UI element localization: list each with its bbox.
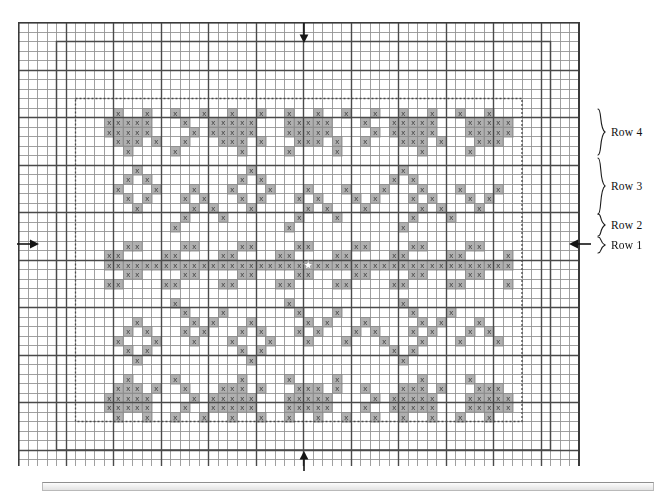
brace-icon-row-4 [596, 108, 607, 156]
row-marker-label-row-2: Row 2 [611, 219, 642, 231]
start-direction-arrow-right-icon [568, 236, 592, 252]
row-marker-label-row-1: Row 1 [611, 239, 642, 251]
row-marker-label-row-3: Row 3 [611, 180, 642, 192]
row-marker-row-4: Row 4 [596, 108, 642, 156]
brace-icon-row-2 [596, 213, 607, 237]
pattern-grid-canvas [18, 22, 580, 466]
row-marker-row-1: Row 1 [596, 236, 642, 254]
start-direction-arrow-left-icon [16, 236, 40, 252]
row-marker-row-2: Row 2 [596, 213, 642, 237]
pattern-chart [18, 22, 580, 466]
page-footer-rule [42, 482, 654, 491]
row-marker-row-3: Row 3 [596, 157, 642, 215]
start-direction-arrow-bottom-icon [296, 450, 312, 472]
brace-icon-row-3 [596, 157, 607, 215]
row-marker-label-row-4: Row 4 [611, 126, 642, 138]
start-direction-arrow-top-icon [296, 22, 312, 44]
brace-icon-row-1 [596, 236, 607, 254]
